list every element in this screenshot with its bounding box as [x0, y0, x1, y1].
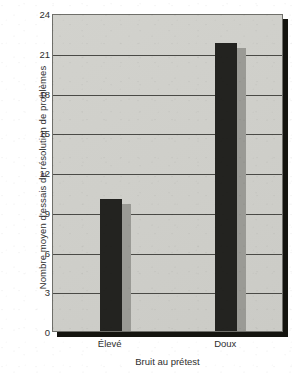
- y-axis-tick-21: 21: [24, 48, 50, 59]
- x-axis-title: Bruit au prétest: [52, 356, 283, 367]
- y-axis-tick-6: 6: [24, 247, 50, 258]
- bar-Doux: [215, 43, 246, 331]
- y-axis-tick-15: 15: [24, 128, 50, 139]
- bar-Élevé: [100, 199, 131, 332]
- y-axis-tick-3: 3: [24, 287, 50, 298]
- x-axis-category-2: Doux: [214, 338, 236, 349]
- y-axis-tick-12: 12: [24, 168, 50, 179]
- y-axis-tick-24: 24: [24, 9, 50, 20]
- x-axis-category-1: Élevé: [98, 338, 122, 349]
- y-axis-tick-9: 9: [24, 207, 50, 218]
- y-axis-tick-labels: 03691215182124: [24, 14, 50, 332]
- bar-body: [100, 199, 122, 332]
- plot-area: [52, 14, 283, 332]
- bar-chart-figure: Nombre moyen d'essais de résolution de p…: [0, 0, 293, 375]
- bar-series: [53, 15, 282, 331]
- y-axis-tick-0: 0: [24, 327, 50, 338]
- x-axis-category-labels: ÉlevéDoux: [52, 338, 283, 354]
- bar-body: [215, 43, 237, 331]
- y-axis-tick-18: 18: [24, 88, 50, 99]
